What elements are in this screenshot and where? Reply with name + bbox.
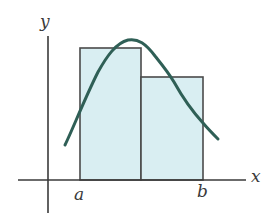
interval-end-label-b: b [197,183,208,200]
interval-start-label-a: a [74,186,84,203]
diagram-canvas [0,0,272,218]
x-axis-label: x [251,168,261,185]
left-rectangle [80,48,141,180]
y-axis-label: y [40,13,50,30]
riemann-sum-diagram: y x a b [0,0,272,218]
right-rectangle [141,77,203,180]
